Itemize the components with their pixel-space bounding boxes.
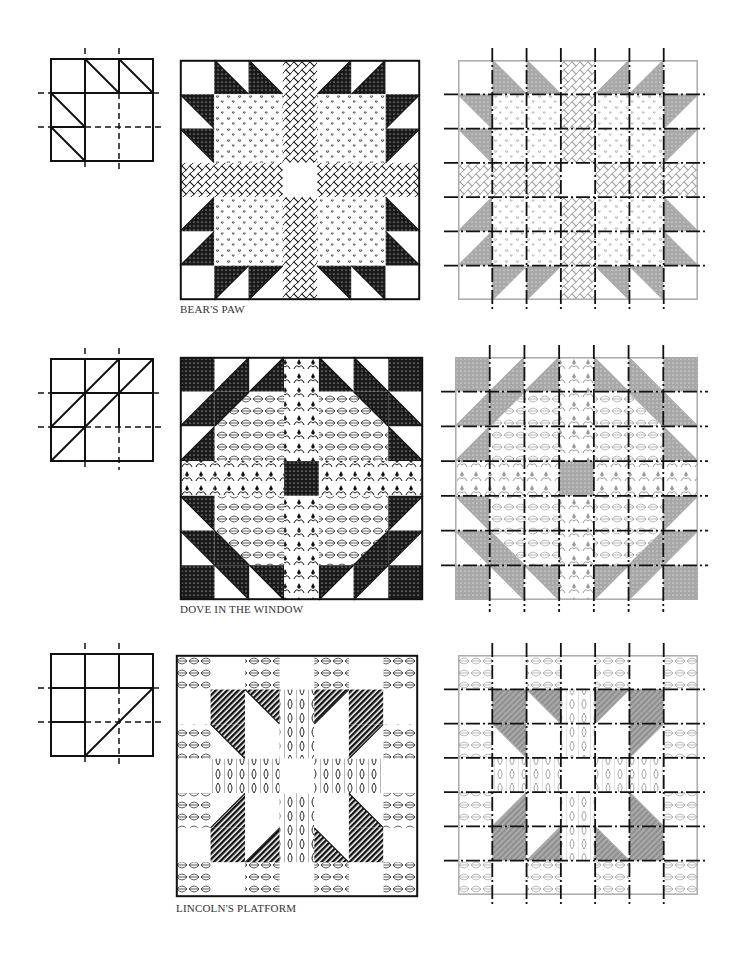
- quilt-block-icon: [180, 60, 420, 300]
- bears-paw-cutting-layout: [458, 60, 698, 300]
- quilt-block-icon: [180, 357, 423, 600]
- block-caption: LINCOLN'S PLATFORM: [176, 902, 296, 914]
- lincoln-cutting-layout: [458, 655, 698, 895]
- dove-in-the-window-block: [180, 357, 423, 600]
- grid-diagram-icon: [50, 358, 154, 462]
- quilt-block-icon: [455, 357, 698, 600]
- lincolns-platform-block: [176, 655, 418, 897]
- bears-paw-key-diagram: [50, 58, 154, 162]
- lincoln-key-diagram: [50, 653, 154, 757]
- grid-diagram-icon: [50, 653, 154, 757]
- quilt-block-icon: [458, 60, 698, 300]
- block-caption: BEAR'S PAW: [180, 303, 245, 315]
- dove-key-diagram: [50, 358, 154, 462]
- quilt-block-icon: [458, 655, 698, 895]
- block-caption: DOVE IN THE WINDOW: [180, 603, 303, 615]
- dove-cutting-layout: [455, 357, 698, 600]
- grid-diagram-icon: [50, 58, 154, 162]
- quilt-block-icon: [176, 655, 418, 897]
- bears-paw-block: [180, 60, 420, 300]
